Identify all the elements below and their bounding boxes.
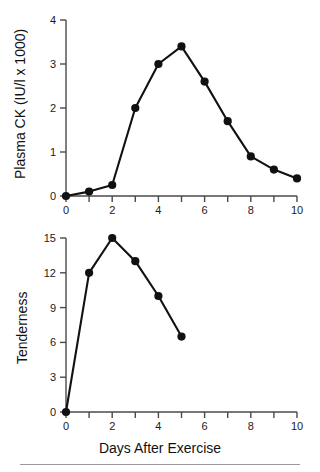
data-point (154, 60, 162, 68)
data-point (131, 257, 139, 265)
data-point (85, 269, 93, 277)
data-point (62, 408, 70, 416)
x-tick-label-tenderness-2: 2 (109, 420, 115, 432)
x-tick-label-tenderness-0: 0 (63, 420, 69, 432)
y-tick-label-tenderness-9: 9 (34, 302, 56, 314)
y-tick-label-tenderness-12: 12 (34, 267, 56, 279)
x-axis-ticks-plasma-ck (66, 196, 297, 202)
y-tick-label-tenderness-0: 0 (34, 406, 56, 418)
chart-panel-tenderness: 0 3 6 9 12 15 0 2 4 6 8 10 (0, 222, 320, 432)
footer-divider (20, 464, 300, 465)
data-point (108, 234, 116, 242)
y-tick-label-tenderness-6: 6 (34, 336, 56, 348)
y-axis-ticks-plasma-ck (60, 20, 66, 196)
data-point (247, 152, 255, 160)
y-axis-ticks-tenderness (60, 238, 66, 412)
data-markers-plasma-ck (62, 42, 301, 200)
y-tick-label-plasma-ck-0: 0 (38, 190, 56, 202)
x-tick-label-plasma-ck-0: 0 (63, 204, 69, 216)
data-point (270, 166, 278, 174)
data-point (154, 292, 162, 300)
data-point (108, 181, 116, 189)
y-tick-label-plasma-ck-3: 3 (38, 58, 56, 70)
x-tick-label-plasma-ck-8: 8 (248, 204, 254, 216)
plot-area-tenderness (0, 222, 320, 432)
x-tick-label-tenderness-4: 4 (155, 420, 161, 432)
data-line-plasma-ck (66, 46, 297, 196)
y-tick-label-plasma-ck-1: 1 (38, 146, 56, 158)
x-tick-label-plasma-ck-10: 10 (291, 204, 303, 216)
data-point (177, 42, 185, 50)
data-point (201, 78, 209, 86)
x-tick-label-tenderness-6: 6 (202, 420, 208, 432)
data-point (131, 104, 139, 112)
data-line-tenderness (66, 238, 182, 412)
y-tick-label-plasma-ck-2: 2 (38, 102, 56, 114)
data-point (62, 192, 70, 200)
data-point (293, 174, 301, 182)
y-tick-label-tenderness-15: 15 (34, 232, 56, 244)
data-point (224, 117, 232, 125)
x-axis-ticks-tenderness (66, 412, 297, 418)
x-tick-label-tenderness-8: 8 (248, 420, 254, 432)
x-tick-label-plasma-ck-4: 4 (155, 204, 161, 216)
y-tick-label-tenderness-3: 3 (34, 371, 56, 383)
x-axis-title-days-after-exercise: Days After Exercise (0, 440, 320, 456)
y-axis-title-tenderness: Tenderness (12, 244, 32, 412)
y-tick-label-plasma-ck-4: 4 (38, 14, 56, 26)
figure-plasma-ck-and-tenderness: Plasma CK (IU/l x 1000) (0, 0, 320, 472)
x-tick-label-plasma-ck-2: 2 (109, 204, 115, 216)
data-point (177, 333, 185, 341)
chart-panel-plasma-ck: Plasma CK (IU/l x 1000) (0, 0, 320, 214)
x-tick-label-plasma-ck-6: 6 (202, 204, 208, 216)
data-point (85, 188, 93, 196)
y-axis-title-plasma-ck: Plasma CK (IU/l x 1000) (10, 6, 30, 202)
x-tick-label-tenderness-10: 10 (291, 420, 303, 432)
